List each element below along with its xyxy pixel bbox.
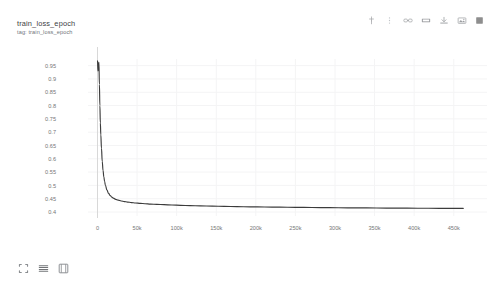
image-export-icon[interactable]	[455, 14, 468, 27]
y-axis-tick-label: 0.4	[48, 209, 56, 215]
series-line[interactable]	[98, 61, 464, 209]
x-axis-tick-label: 400k	[408, 225, 420, 231]
fullscreen-icon[interactable]	[473, 14, 486, 27]
list-view-icon[interactable]	[37, 262, 49, 274]
x-axis-tick-label: 150k	[210, 225, 222, 231]
x-axis-tick-label: 450k	[448, 225, 460, 231]
y-axis-tick-label: 0.85	[45, 89, 56, 95]
fit-view-icon[interactable]	[57, 262, 69, 274]
y-axis-tick-label: 0.65	[45, 143, 56, 149]
link-icon[interactable]	[401, 14, 414, 27]
dots-menu-icon[interactable]	[383, 14, 396, 27]
y-axis-tick-label: 0.8	[48, 103, 56, 109]
y-axis-tick-label: 0.6	[48, 156, 56, 162]
x-axis-tick-label: 100k	[171, 225, 183, 231]
x-axis-tick-label: 300k	[329, 225, 341, 231]
fit-domain-icon[interactable]	[419, 14, 432, 27]
chart-tag-label: tag: train_loss_epoch	[17, 30, 75, 36]
x-axis-tick-label: 0	[96, 225, 99, 231]
chart-card: train_loss_epoch tag: train_loss_epoch	[0, 0, 495, 289]
page-title: train_loss_epoch	[17, 20, 75, 27]
expand-icon[interactable]	[17, 262, 29, 274]
loss-curve-svg[interactable]: 0.40.450.50.550.60.650.70.750.80.850.90.…	[0, 36, 495, 252]
bottom-controls	[17, 261, 69, 275]
plot-area[interactable]: 0.40.450.50.550.60.650.70.750.80.850.90.…	[0, 36, 495, 252]
x-axis-tick-label: 200k	[250, 225, 262, 231]
y-axis-tick-label: 0.75	[45, 116, 56, 122]
y-axis-tick-label: 0.45	[45, 196, 56, 202]
y-axis-tick-label: 0.7	[48, 129, 56, 135]
chart-toolbar	[365, 13, 486, 27]
x-axis-tick-label: 350k	[369, 225, 381, 231]
title-block: train_loss_epoch tag: train_loss_epoch	[17, 20, 75, 35]
y-axis-tick-label: 0.95	[45, 63, 56, 69]
chart-header: train_loss_epoch tag: train_loss_epoch	[0, 0, 495, 36]
y-axis-tick-label: 0.5	[48, 183, 56, 189]
y-axis-tick-label: 0.9	[48, 76, 56, 82]
y-axis-tick-label: 0.55	[45, 169, 56, 175]
x-axis-tick-label: 250k	[289, 225, 301, 231]
x-axis-tick-label: 50k	[133, 225, 142, 231]
pin-icon[interactable]	[365, 14, 378, 27]
download-icon[interactable]	[437, 14, 450, 27]
